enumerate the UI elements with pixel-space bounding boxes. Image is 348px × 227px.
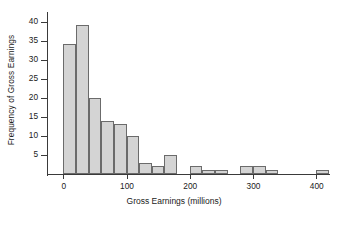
histogram-bar <box>114 124 127 174</box>
x-axis-label: Gross Earnings (millions) <box>0 196 348 206</box>
histogram-bar <box>152 166 165 174</box>
histogram-bar <box>89 98 102 174</box>
y-axis-tick: 30 <box>41 60 47 61</box>
y-axis-tick: 5 <box>41 155 47 156</box>
histogram-bar <box>63 44 76 174</box>
y-axis-tick: 15 <box>41 117 47 118</box>
y-axis-tick: 35 <box>41 41 47 42</box>
y-axis-tick-label: 15 <box>29 111 38 121</box>
x-axis-tick-label: 300 <box>247 181 261 191</box>
x-axis-tick: 200 <box>190 174 191 179</box>
x-axis-tick: 0 <box>63 174 64 179</box>
x-axis-tick-label: 200 <box>183 181 197 191</box>
y-axis-tick-label: 5 <box>33 149 38 159</box>
y-axis-tick-label: 25 <box>29 73 38 83</box>
plot-area: 510152025303540 0100200300400 <box>57 14 332 174</box>
x-axis-line <box>47 174 330 175</box>
x-axis-tick-label: 400 <box>310 181 324 191</box>
histogram-bar <box>215 170 228 174</box>
y-axis-label-text: Frequency of Gross Earnings <box>6 35 16 146</box>
y-axis-line <box>47 12 48 176</box>
histogram-bar <box>253 166 266 174</box>
y-axis-tick-label: 20 <box>29 92 38 102</box>
y-axis-tick: 25 <box>41 79 47 80</box>
histogram-bar <box>202 170 215 174</box>
y-axis-tick-label: 35 <box>29 35 38 45</box>
histogram-bar <box>316 170 329 174</box>
x-axis-tick: 100 <box>127 174 128 179</box>
histogram-bar <box>164 155 177 174</box>
histogram-bar <box>240 166 253 174</box>
y-axis-label: Frequency of Gross Earnings <box>2 0 20 180</box>
x-axis-tick: 300 <box>253 174 254 179</box>
histogram-bar <box>101 121 114 174</box>
x-axis-tick-label: 100 <box>120 181 134 191</box>
histogram-bar <box>139 163 152 174</box>
histogram-bar <box>76 25 89 174</box>
y-axis-tick: 40 <box>41 22 47 23</box>
y-axis-tick: 20 <box>41 98 47 99</box>
histogram-figure: Frequency of Gross Earnings 510152025303… <box>0 0 348 227</box>
x-axis-tick: 400 <box>316 174 317 179</box>
histogram-bar <box>127 136 140 174</box>
y-axis-tick-label: 30 <box>29 54 38 64</box>
y-axis-tick-label: 10 <box>29 130 38 140</box>
histogram-bar <box>266 170 279 174</box>
histogram-bar <box>190 166 203 174</box>
x-axis-tick-label: 0 <box>62 181 67 191</box>
y-axis-tick: 10 <box>41 136 47 137</box>
y-axis-tick-label: 40 <box>29 16 38 26</box>
